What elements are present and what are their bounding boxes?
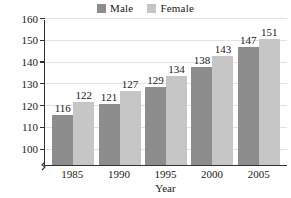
legend-entry-male: Male [97, 3, 133, 14]
bar-group: 129134 [143, 20, 189, 165]
bar-group: 138143 [189, 20, 235, 165]
bar-female-1990[interactable]: 127 [120, 91, 141, 165]
bar-male-1995[interactable]: 129 [145, 87, 166, 165]
bar-value-label: 134 [168, 64, 185, 75]
legend-swatch-male [97, 4, 106, 13]
legend-entry-female: Female [147, 3, 194, 14]
bar-group: 121127 [96, 20, 142, 165]
bar-female-2005[interactable]: 151 [259, 39, 280, 165]
x-axis-title: Year [44, 183, 287, 194]
y-axis-tick-label: 150 [22, 35, 39, 46]
y-axis-title: Population (millions) [0, 0, 5, 14]
bar-male-2005[interactable]: 147 [238, 47, 259, 165]
legend-label-male: Male [110, 3, 133, 14]
bar-value-label: 147 [240, 35, 257, 46]
bar-female-1985[interactable]: 122 [73, 102, 94, 165]
bar-value-label: 143 [215, 44, 232, 55]
y-axis-tick-label: 140 [22, 57, 39, 68]
y-axis-tick-label: 100 [22, 144, 39, 155]
plot-area: 100110120130140150160 116122121127129134… [44, 20, 287, 166]
y-axis-tick-label: 120 [22, 101, 39, 112]
bar-female-2000[interactable]: 143 [212, 56, 233, 165]
x-axis-tick-label: 1985 [49, 169, 96, 180]
bar-female-1995[interactable]: 134 [166, 76, 187, 165]
bar-value-label: 121 [101, 92, 118, 103]
chart-legend: Male Female [0, 1, 291, 15]
bar-value-label: 122 [75, 90, 92, 101]
bar-value-label: 129 [147, 75, 164, 86]
x-axis-tick-labels: 19851990199520002005 [44, 169, 287, 180]
bar-value-label: 116 [55, 103, 71, 114]
y-axis-tick-label: 110 [22, 122, 38, 133]
gridline [45, 18, 287, 19]
bar-value-label: 127 [122, 79, 139, 90]
y-axis-tick [40, 18, 45, 19]
bar-groups: 116122121127129134138143147151 [45, 20, 287, 165]
x-axis-tick-label: 2005 [235, 169, 282, 180]
bar-value-label: 138 [194, 55, 211, 66]
bar-group: 147151 [236, 20, 282, 165]
x-axis-tick-label: 2000 [189, 169, 236, 180]
bar-value-label: 151 [261, 27, 278, 38]
bar-male-2000[interactable]: 138 [191, 67, 212, 165]
y-axis-tick-label: 160 [22, 14, 39, 25]
y-axis-tick-label: 130 [22, 79, 39, 90]
bar-group: 116122 [50, 20, 96, 165]
x-axis-tick-label: 1995 [142, 169, 189, 180]
bar-chart-figure: Male Female 100110120130140150160 116122… [0, 0, 291, 198]
bar-male-1990[interactable]: 121 [99, 104, 120, 165]
bar-male-1985[interactable]: 116 [52, 115, 73, 165]
x-axis-tick-label: 1990 [96, 169, 143, 180]
legend-label-female: Female [160, 3, 194, 14]
legend-swatch-female [147, 4, 156, 13]
